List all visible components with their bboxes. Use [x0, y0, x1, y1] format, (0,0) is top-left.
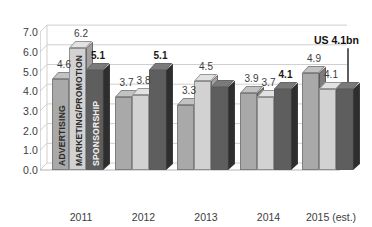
bar-sponsorship-2011: SPONSORSHIP: [86, 70, 103, 170]
chart-root: 0.01.02.03.04.05.06.07.0 ADVERTISINGMARK…: [0, 0, 372, 227]
bar-advertising-2012: [115, 97, 132, 170]
y-tick-label: 0.0: [4, 165, 38, 175]
y-axis: 0.01.02.03.04.05.06.07.0: [0, 0, 38, 227]
value-label: 4.6: [51, 60, 77, 70]
value-label: 4.1: [273, 70, 299, 80]
bar-sponsorship-2015: [336, 89, 353, 170]
bar-side-face: [291, 83, 298, 170]
value-label: 5.1: [85, 51, 111, 61]
bar-front-face: [177, 105, 194, 170]
bar-front-face: SPONSORSHIP: [86, 70, 103, 170]
bar-front-face: [115, 97, 132, 170]
bar-front-face: ADVERTISING: [52, 79, 69, 170]
bar-front-face: [240, 93, 257, 170]
bar-side-face: [228, 81, 235, 170]
y-tick-label: 6.0: [4, 47, 38, 57]
bar-front-face: [257, 97, 274, 170]
bar-advertising-2013: [177, 105, 194, 170]
y-tick-label: 2.0: [4, 126, 38, 136]
bar-advertising-2015: [302, 73, 319, 170]
x-tick-label: 2015 (est.): [291, 211, 371, 223]
y-tick-label: 5.0: [4, 67, 38, 77]
annotation-us-4-1bn: US 4.1bn: [314, 34, 359, 46]
bar-front-face: [211, 87, 228, 170]
value-label: 6.2: [68, 29, 94, 39]
y-tick-label: 7.0: [4, 27, 38, 37]
bar-sponsorship-2014: [274, 89, 291, 170]
bar-advertising-2011: ADVERTISING: [52, 79, 69, 170]
bar-marketing-promotion-2012: [132, 95, 149, 170]
bar-front-face: [336, 89, 353, 170]
bar-side-face: [166, 63, 173, 170]
value-label: 4.5: [193, 62, 219, 72]
value-label: 5.1: [148, 51, 174, 61]
bar-marketing-promotion-2014: [257, 97, 274, 170]
value-label: 4.9: [301, 54, 327, 64]
bar-front-face: [132, 95, 149, 170]
bar-front-face: [274, 89, 291, 170]
bar-advertising-2014: [240, 93, 257, 170]
bar-marketing-promotion-2015: [319, 89, 336, 170]
bar-front-face: [319, 89, 336, 170]
bar-side-face: [353, 83, 360, 170]
bar-sponsorship-2013: [211, 87, 228, 170]
value-label: 3.3: [176, 86, 202, 96]
bar-front-face: [302, 73, 319, 170]
plot-area: ADVERTISINGMARKETING/PROMOTIONSPONSORSHI…: [40, 14, 362, 192]
y-tick-label: 3.0: [4, 106, 38, 116]
y-tick-label: 1.0: [4, 145, 38, 155]
y-tick-label: 4.0: [4, 86, 38, 96]
value-label: 4.1: [318, 70, 344, 80]
value-label: 3.8: [131, 76, 157, 86]
